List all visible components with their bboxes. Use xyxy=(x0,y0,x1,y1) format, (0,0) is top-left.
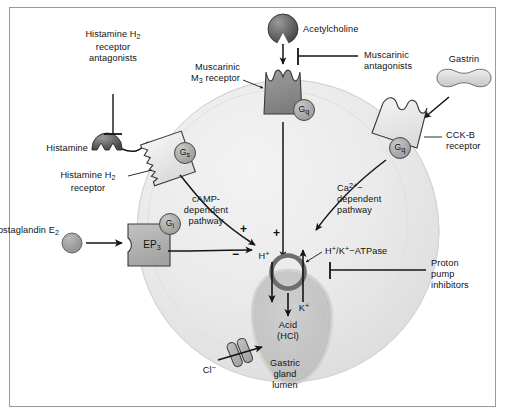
calcium-pathway-label: Ca2+− dependent pathway xyxy=(337,180,381,217)
histamine-molecule xyxy=(92,133,122,150)
h2-antagonist-inhibition xyxy=(104,94,122,134)
muscarinic-antagonist-inhibition xyxy=(298,48,358,65)
histamine-label: Histamine xyxy=(46,143,88,154)
prostaglandin-e2-molecule xyxy=(62,233,82,253)
acetylcholine-molecule xyxy=(268,14,298,44)
potassium-label: K+ xyxy=(299,300,310,314)
figure-canvas: Histamine H2 receptor antagonists Histam… xyxy=(0,0,505,417)
acetylcholine-label: Acetylcholine xyxy=(303,24,358,35)
h2-antagonists-label: Histamine H2 receptor antagonists xyxy=(85,29,140,64)
ppi-label: Proton pump inhibitors xyxy=(431,258,469,292)
m3-receptor-label: Muscarinic M3 receptor xyxy=(191,62,240,86)
plus-sign-camp: + xyxy=(240,223,247,235)
proton-label: H+ xyxy=(258,248,269,262)
gastric-gland-lumen-label: Gastric gland lumen xyxy=(270,358,300,392)
h2-receptor-label: Histamine H2 receptor xyxy=(60,170,115,194)
gi-protein-label: Gi xyxy=(166,218,175,231)
gastrin-binding-arrow xyxy=(424,97,449,118)
plus-sign-center: + xyxy=(273,227,280,239)
ep3-receptor-label: EP3 xyxy=(143,239,161,253)
prostaglandin-e2-label: Prostaglandin E2 xyxy=(0,225,59,238)
camp-pathway-label: cAMP- dependent pathway xyxy=(184,194,228,228)
hk-atpase-label: H+/K+−ATPase xyxy=(325,243,387,257)
minus-sign-ep3: − xyxy=(232,248,239,260)
chloride-label: Cl− xyxy=(203,362,216,376)
acid-label: Acid (HCl) xyxy=(277,320,299,342)
gq-protein-cckb-label: Gq xyxy=(395,142,406,155)
cckb-receptor-label: CCK-B receptor xyxy=(446,130,481,152)
pathway-graphics xyxy=(0,0,505,417)
muscarinic-antagonists-label: Muscarinic antagonists xyxy=(364,50,412,72)
gastrin-molecule xyxy=(437,69,491,87)
gq-protein-m3-label: Gq xyxy=(299,104,310,117)
gastrin-label: Gastrin xyxy=(449,54,479,65)
gs-protein-label: Gs xyxy=(180,147,191,160)
